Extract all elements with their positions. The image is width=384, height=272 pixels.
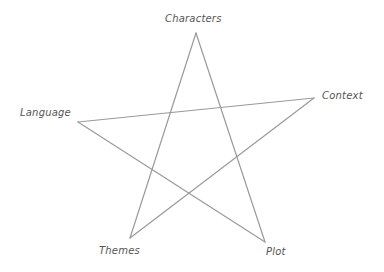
edge-language-context: [78, 98, 314, 122]
edge-plot-language: [78, 122, 265, 242]
edge-themes-characters: [130, 33, 196, 238]
label-language: Language: [20, 107, 71, 119]
star-lines: [0, 0, 384, 272]
label-context: Context: [322, 90, 363, 102]
label-themes: Themes: [99, 245, 140, 257]
pentagram-diagram: Characters Context Plot Themes Language: [0, 0, 384, 272]
edge-characters-plot: [196, 33, 265, 242]
label-characters: Characters: [165, 13, 222, 25]
label-plot: Plot: [266, 246, 286, 258]
edge-context-themes: [130, 98, 314, 238]
